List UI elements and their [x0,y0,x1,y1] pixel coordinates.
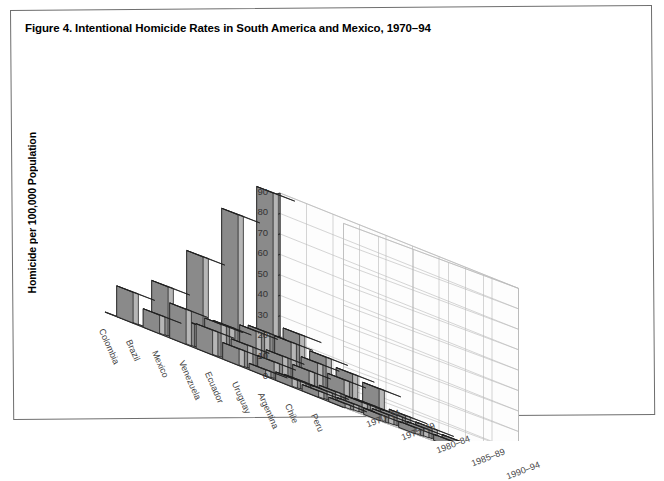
y-tick-10: 10 [242,350,268,361]
y-tick-90: 90 [242,186,268,197]
y-tick-0: 0 [242,370,268,381]
y-tick-60: 60 [242,247,268,258]
y-tick-40: 40 [242,288,268,299]
y-tick-80: 80 [242,206,268,217]
y-tick-30: 30 [242,309,268,320]
period-label-1990-94: 1990–94 [505,459,541,481]
y-tick-70: 70 [242,227,268,238]
y-tick-20: 20 [242,329,268,340]
y-tick-50: 50 [242,268,268,279]
period-label-1985-89: 1985–89 [470,446,506,468]
